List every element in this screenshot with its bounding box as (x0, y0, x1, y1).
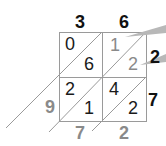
cell-0-0-ones: 6 (84, 55, 94, 73)
cell-1-0-ones: 1 (84, 99, 94, 117)
callout-pointer-tens (125, 25, 166, 37)
result-digit-ones: 2 (119, 124, 129, 142)
result-digit-tens: 7 (75, 124, 85, 142)
top-digit-1: 3 (75, 13, 85, 31)
cell-1-1-ones: 2 (128, 99, 138, 117)
cell-1-0-tens: 2 (65, 80, 75, 98)
result-digit-hundreds: 9 (45, 98, 55, 116)
cell-1-1-tens: 4 (109, 80, 119, 98)
cell-0-1-tens: 1 (110, 36, 120, 54)
cell-0-1-ones: 2 (128, 55, 138, 73)
top-digit-2: 6 (119, 13, 129, 31)
right-digit-1: 2 (150, 48, 160, 66)
cell-0-0-tens: 0 (65, 35, 75, 53)
right-digit-2: 7 (148, 91, 158, 109)
